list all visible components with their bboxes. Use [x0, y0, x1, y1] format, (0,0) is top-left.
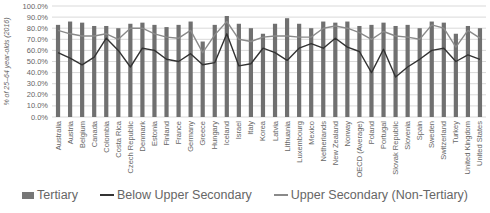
- y-tick-label: 80.0%: [27, 24, 49, 33]
- legend-label-tertiary: Tertiary: [37, 188, 78, 202]
- bar-swatch-icon: [22, 192, 34, 199]
- bar-tertiary: [68, 22, 72, 117]
- legend: Tertiary Below Upper Secondary Upper Sec…: [0, 188, 490, 202]
- bar-tertiary: [189, 22, 193, 117]
- x-tick-label: Korea: [258, 120, 267, 141]
- x-tick-label: Iceland: [222, 121, 231, 145]
- bar-tertiary: [56, 25, 60, 117]
- x-tick-label: Austria: [66, 120, 75, 144]
- bar-tertiary: [333, 23, 337, 117]
- y-tick-label: 90.0%: [27, 13, 49, 22]
- legend-label-below: Below Upper Secondary: [117, 188, 252, 202]
- bar-tertiary: [152, 25, 156, 117]
- line-below-upper-secondary: [58, 34, 480, 77]
- x-tick-label: Canada: [90, 120, 99, 147]
- bar-tertiary: [418, 28, 422, 117]
- x-tick-label: Slovak Republic: [391, 121, 400, 175]
- bar-tertiary: [213, 25, 217, 117]
- x-tick-label: Czech Republic: [126, 121, 135, 174]
- legend-label-upper: Upper Secondary (Non-Tertiary): [291, 188, 468, 202]
- bar-tertiary: [442, 23, 446, 117]
- x-tick-label: France: [174, 121, 183, 144]
- x-tick-label: Luxembourg: [295, 121, 304, 163]
- x-tick-label: Costa Rica: [114, 120, 123, 158]
- bar-tertiary: [116, 28, 120, 117]
- y-tick-label: 0.0%: [31, 113, 48, 122]
- x-tick-label: Switzerland: [439, 121, 448, 160]
- x-tick-label: Netherlands: [319, 121, 328, 162]
- bar-tertiary: [128, 24, 132, 117]
- legend-item-below-upper-secondary: Below Upper Secondary: [100, 188, 252, 202]
- x-tick-label: Spain: [415, 121, 424, 140]
- bar-tertiary: [273, 24, 277, 117]
- bar-tertiary: [478, 28, 482, 117]
- y-tick-label: 100.0%: [23, 2, 49, 11]
- x-tick-label: Israel: [234, 121, 243, 140]
- y-tick-label: 50.0%: [27, 57, 49, 66]
- x-tick-label: Poland: [367, 121, 376, 144]
- x-tick-label: United States: [475, 121, 484, 166]
- x-tick-label: Belgium: [78, 121, 87, 148]
- x-tick-label: Australia: [54, 120, 63, 150]
- x-tick-label: Mexico: [307, 121, 316, 145]
- bar-tertiary: [285, 18, 289, 117]
- x-tick-label: Norway: [343, 121, 352, 147]
- x-tick-label: New Zealand: [331, 121, 340, 165]
- legend-item-tertiary: Tertiary: [22, 188, 78, 202]
- bar-tertiary: [80, 23, 84, 117]
- y-tick-label: 10.0%: [27, 101, 49, 110]
- bar-tertiary: [140, 23, 144, 117]
- line-marker-icon: [100, 194, 114, 196]
- line-marker-icon: [274, 194, 288, 196]
- x-tick-label: Latvia: [271, 120, 280, 141]
- y-tick-label: 60.0%: [27, 46, 49, 55]
- x-tick-label: Portugal: [379, 121, 388, 149]
- y-tick-label: 70.0%: [27, 35, 49, 44]
- x-tick-label: Hungary: [210, 121, 219, 150]
- y-axis-label: % of 25–64 year-olds (2016): [3, 17, 11, 105]
- x-tick-label: Greece: [198, 121, 207, 146]
- y-tick-label: 40.0%: [27, 68, 49, 77]
- y-tick-label: 20.0%: [27, 90, 49, 99]
- chart: 0.0%10.0%20.0%30.0%40.0%50.0%60.0%70.0%8…: [0, 0, 490, 213]
- x-tick-label: Denmark: [138, 121, 147, 152]
- bar-tertiary: [466, 26, 470, 117]
- bar-tertiary: [164, 27, 168, 117]
- line-upper-secondary-non-tertiary-: [58, 22, 480, 53]
- bar-tertiary: [261, 34, 265, 117]
- bar-tertiary: [381, 23, 385, 117]
- x-tick-label: Finland: [162, 121, 171, 146]
- x-tick-label: United Kingdom: [463, 121, 472, 174]
- bar-tertiary: [321, 22, 325, 117]
- x-tick-label: OECD (Average): [355, 120, 364, 177]
- x-tick-label: Slovenia: [403, 120, 412, 150]
- bar-tertiary: [393, 26, 397, 117]
- bar-tertiary: [345, 22, 349, 117]
- x-tick-label: Germany: [186, 121, 195, 152]
- bar-tertiary: [92, 26, 96, 117]
- x-tick-label: Sweden: [427, 121, 436, 148]
- x-tick-label: Lithuania: [283, 120, 292, 151]
- x-tick-label: Colombia: [102, 120, 111, 153]
- x-tick-label: Turkey: [451, 121, 460, 144]
- bar-tertiary: [430, 22, 434, 117]
- y-tick-label: 30.0%: [27, 79, 49, 88]
- legend-item-upper-secondary: Upper Secondary (Non-Tertiary): [274, 188, 468, 202]
- x-tick-label: Estonia: [150, 120, 159, 146]
- bar-tertiary: [225, 16, 229, 117]
- bar-tertiary: [406, 25, 410, 117]
- bar-tertiary: [309, 28, 313, 117]
- x-tick-label: Italy: [246, 121, 255, 135]
- bar-tertiary: [357, 26, 361, 117]
- combo-bar-line-chart: 0.0%10.0%20.0%30.0%40.0%50.0%60.0%70.0%8…: [0, 0, 490, 213]
